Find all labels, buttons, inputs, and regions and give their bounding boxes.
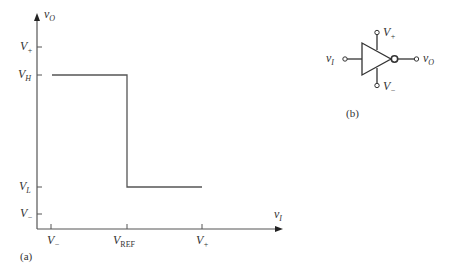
y-ticks bbox=[37, 47, 42, 214]
y-tick-label-vl: VL bbox=[19, 180, 31, 195]
tick-sub: L bbox=[26, 186, 30, 195]
output-label: vO bbox=[423, 52, 434, 67]
x-tick-label-vref: VREF bbox=[113, 234, 135, 249]
y-tick-label-vminus: V− bbox=[20, 207, 33, 222]
x-axis-label-sub: I bbox=[279, 214, 282, 223]
input-label-sub: I bbox=[331, 58, 334, 67]
panel-a-caption: (a) bbox=[20, 251, 32, 262]
input-terminal-icon bbox=[343, 57, 347, 61]
input-label: vI bbox=[326, 52, 334, 67]
y-tick-label-vplus: V+ bbox=[20, 40, 33, 55]
tick-sub: + bbox=[27, 46, 32, 55]
supply-pos-label: V+ bbox=[383, 26, 396, 41]
supply-neg-sub: − bbox=[390, 86, 395, 95]
panel-b-caption: (b) bbox=[346, 108, 359, 119]
supply-pos-sub: + bbox=[390, 32, 395, 41]
output-label-sub: O bbox=[428, 58, 434, 67]
y-tick-label-vh: VH bbox=[18, 68, 31, 83]
tick-sub: REF bbox=[120, 240, 135, 249]
y-axis-label-sub: O bbox=[49, 14, 55, 23]
supply-neg-label: V− bbox=[383, 80, 396, 95]
tick-sub: H bbox=[25, 74, 31, 83]
supply-neg-terminal-icon bbox=[375, 83, 379, 87]
x-tick-label-vminus: V− bbox=[47, 234, 60, 249]
x-ticks bbox=[51, 224, 202, 229]
x-tick-label-vplus: V+ bbox=[196, 234, 209, 249]
tick-sub: + bbox=[203, 240, 208, 249]
transfer-curve bbox=[52, 75, 202, 187]
comparator-symbol bbox=[343, 30, 419, 87]
x-axis-arrow-icon bbox=[275, 226, 283, 232]
tick-sub: − bbox=[27, 213, 32, 222]
y-axis-label: vO bbox=[44, 8, 55, 23]
y-axis-arrow-icon bbox=[34, 13, 40, 21]
x-axis-label: vI bbox=[274, 208, 282, 223]
output-terminal-icon bbox=[414, 57, 418, 61]
tick-sub: − bbox=[54, 240, 59, 249]
supply-pos-terminal-icon bbox=[375, 30, 379, 34]
